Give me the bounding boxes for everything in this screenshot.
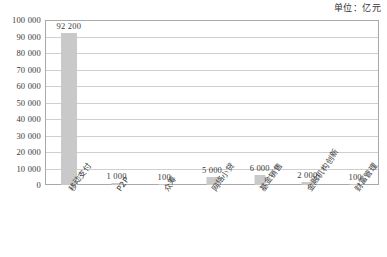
bar-group: 100 <box>140 20 188 185</box>
y-axis-tick-label: 50 000 <box>16 98 41 107</box>
y-axis-tick-label: 20 000 <box>16 148 41 157</box>
y-axis-tick-label: 10 000 <box>16 164 41 173</box>
y-axis-tick-label: 30 000 <box>16 131 41 140</box>
x-axis-tick: 移动支付 <box>45 186 93 256</box>
y-axis: 100 00090 00080 00070 00060 00050 00040 … <box>0 20 44 185</box>
y-axis-tick-label: 100 000 <box>12 16 41 25</box>
y-axis-tick-label: 70 000 <box>16 65 41 74</box>
x-axis: 移动支付P2P众筹网络小贷基金销售金融机构创新财富管理 <box>45 186 379 256</box>
unit-annotation: 单位：亿元 <box>334 1 381 14</box>
x-axis-tick: 基金销售 <box>236 186 284 256</box>
bar <box>61 33 77 185</box>
x-axis-tick: 网络小贷 <box>188 186 236 256</box>
x-axis-tick: 众筹 <box>140 186 188 256</box>
bar-group: 1 000 <box>93 20 141 185</box>
bar-value-label: 92 200 <box>57 22 82 31</box>
x-axis-tick: P2P <box>93 186 141 256</box>
y-axis-tick-label: 40 000 <box>16 115 41 124</box>
y-axis-tick-label: 60 000 <box>16 82 41 91</box>
bar-chart: 单位：亿元 100 00090 00080 00070 00060 00050 … <box>0 0 387 257</box>
x-axis-tick: 金融机构创新 <box>284 186 332 256</box>
bar-value-label: 6 000 <box>250 164 270 173</box>
x-axis-tick: 财富管理 <box>331 186 379 256</box>
y-axis-tick-label: 80 000 <box>16 49 41 58</box>
y-axis-tick-label: 0 <box>37 181 41 190</box>
y-axis-tick-label: 90 000 <box>16 32 41 41</box>
